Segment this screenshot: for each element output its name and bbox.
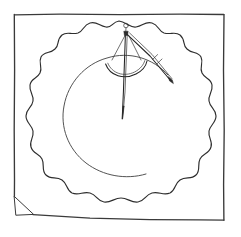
artboard: Pen and ink drawing of a plate with a sc…	[0, 0, 241, 237]
plate-scalloped-rim	[26, 21, 216, 202]
compass-needle-point-icon	[122, 106, 124, 119]
plate-inner-well	[63, 55, 168, 176]
plate-outline	[26, 21, 216, 202]
frame-top-edge	[15, 14, 224, 15]
frame-border	[14, 14, 224, 220]
frame-right-edge	[224, 15, 225, 221]
frame-corner-fold-icon	[14, 197, 33, 216]
frame-bottom-edge	[33, 215, 224, 221]
plate-well-arc	[63, 55, 168, 176]
drawing-compass	[106, 23, 174, 119]
line-drawing-canvas	[0, 0, 241, 237]
compass-arc-brace	[112, 34, 126, 60]
compass-pencil-leg	[127, 35, 170, 81]
